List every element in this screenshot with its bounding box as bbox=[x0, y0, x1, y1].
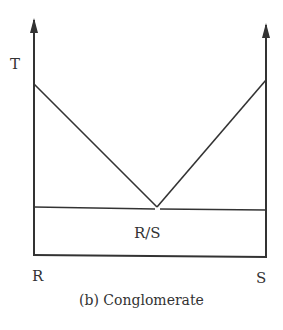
left-axis-arrow-icon bbox=[30, 18, 38, 33]
x-axis-left-label: R bbox=[32, 267, 44, 285]
caption: (b) Conglomerate bbox=[79, 292, 204, 308]
eutectic-line-right bbox=[160, 209, 266, 210]
liquidus-left bbox=[34, 84, 157, 207]
eutectic-line-left bbox=[34, 207, 155, 209]
y-axis-label: T bbox=[10, 55, 20, 73]
bottom-axis bbox=[33, 255, 267, 257]
conglomerate-diagram: T R S R/S (b) Conglomerate bbox=[0, 0, 283, 330]
liquidus-right bbox=[157, 80, 266, 207]
right-axis-arrow-icon bbox=[262, 23, 270, 38]
region-label: R/S bbox=[134, 224, 161, 242]
x-axis-right-label: S bbox=[256, 269, 266, 287]
